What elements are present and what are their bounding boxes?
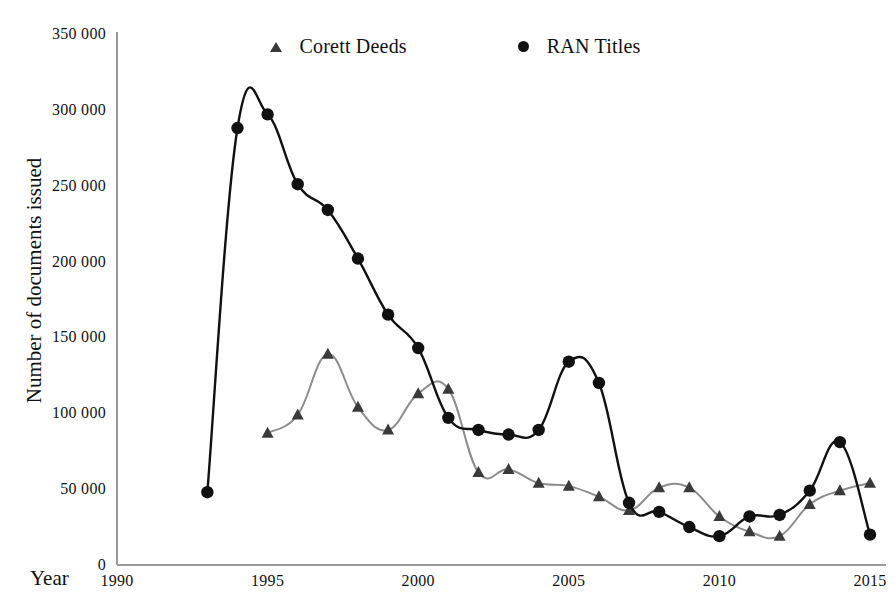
- data-point-triangle: [472, 466, 484, 477]
- data-point-triangle: [292, 408, 304, 419]
- data-point-triangle: [774, 530, 786, 541]
- data-point-circle: [864, 528, 876, 540]
- data-point-circle: [713, 530, 725, 542]
- data-point-circle: [322, 204, 334, 216]
- series-ran-titles: [201, 87, 876, 542]
- data-point-circle: [201, 486, 213, 498]
- data-point-circle: [834, 436, 846, 448]
- data-point-circle: [261, 108, 273, 120]
- data-point-circle: [231, 122, 243, 134]
- data-point-circle: [563, 356, 575, 368]
- data-point-triangle: [412, 387, 424, 398]
- data-point-circle: [472, 424, 484, 436]
- data-point-circle: [352, 252, 364, 264]
- data-point-circle: [804, 484, 816, 496]
- data-point-circle: [683, 521, 695, 533]
- data-point-circle: [292, 178, 304, 190]
- plot-area: [0, 0, 896, 613]
- data-point-triangle: [804, 498, 816, 509]
- data-point-circle: [773, 509, 785, 521]
- data-point-circle: [412, 342, 424, 354]
- data-point-circle: [532, 424, 544, 436]
- data-point-circle: [623, 497, 635, 509]
- data-point-circle: [743, 510, 755, 522]
- data-point-circle: [382, 308, 394, 320]
- data-point-circle: [442, 412, 454, 424]
- data-point-circle: [502, 428, 514, 440]
- data-point-triangle: [322, 348, 334, 359]
- data-point-triangle: [864, 477, 876, 488]
- data-point-triangle: [503, 463, 515, 474]
- data-point-circle: [593, 377, 605, 389]
- data-point-circle: [653, 506, 665, 518]
- chart-root: { "chart_data": { "type": "line", "title…: [0, 0, 896, 613]
- series-line: [207, 87, 870, 536]
